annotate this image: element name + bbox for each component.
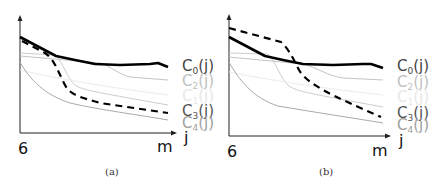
label-c4-rest: (j) bbox=[413, 116, 429, 134]
x-tick-start: 6 bbox=[227, 144, 237, 160]
label-c4-rest: (j) bbox=[198, 114, 214, 132]
caption-b: (b) bbox=[319, 166, 333, 177]
panel-b: C0(j) C2(j) C1(j) C3(j) C4(j) j 6 m (b) bbox=[223, 0, 446, 188]
x-axis-arrow-icon bbox=[385, 134, 391, 139]
series-c1-line bbox=[20, 53, 168, 105]
x-axis-label-j: j bbox=[399, 133, 403, 149]
series-c3-line bbox=[22, 41, 168, 113]
x-tick-end: m bbox=[157, 139, 173, 155]
series-c2-line bbox=[20, 56, 168, 80]
panel-a: C0(j) C2(j) C1(j) C3(j) C4(j) j 6 m (a) bbox=[0, 0, 223, 188]
x-axis-label-j: j bbox=[184, 130, 188, 146]
series-c0-line bbox=[20, 37, 168, 67]
x-tick-start: 6 bbox=[18, 141, 28, 157]
series-c1-line bbox=[229, 53, 383, 107]
x-axis-arrow-icon bbox=[171, 131, 177, 136]
y-axis-arrow-icon bbox=[227, 14, 232, 20]
y-axis-arrow-icon bbox=[18, 15, 23, 21]
x-tick-end: m bbox=[372, 143, 388, 159]
series-c3-line bbox=[229, 28, 381, 117]
caption-a: (a) bbox=[105, 166, 119, 177]
series-c0-line bbox=[229, 37, 383, 68]
